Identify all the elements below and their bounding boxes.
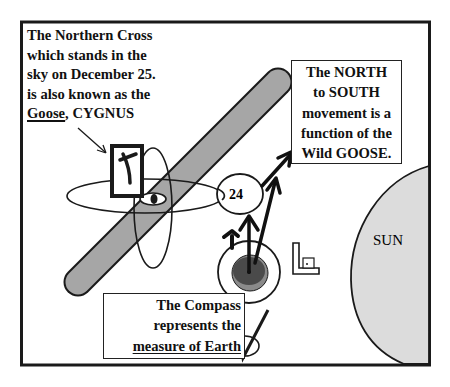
goose-underlined: Goose	[27, 105, 65, 121]
caption-line: is also known as the	[27, 85, 227, 105]
box-line: movement is a	[292, 103, 401, 123]
box-line: represents the	[104, 315, 241, 335]
caption-line: The Northern Cross	[27, 26, 227, 46]
box-line: function of the	[292, 123, 401, 143]
caption-line: Goose, CYGNUS	[27, 104, 227, 124]
compass-box: The Compass represents the measure of Ea…	[103, 293, 245, 359]
northern-cross-card	[112, 146, 142, 196]
box-line: The NORTH	[292, 62, 401, 82]
box-line: to SOUTH	[292, 82, 401, 102]
caption-line: which stands in the	[27, 46, 227, 66]
cygnus-text: , CYGNUS	[65, 105, 134, 121]
sun-label: SUN	[373, 232, 403, 248]
caption-line: sky on December 25.	[27, 65, 227, 85]
northern-cross-caption: The Northern Cross which stands in the s…	[27, 26, 227, 124]
box-line: Wild GOOSE.	[292, 143, 401, 163]
north-south-box: The NORTH to SOUTH movement is a functio…	[291, 60, 402, 164]
box-line: measure of Earth	[104, 336, 241, 356]
box-line: The Compass	[104, 295, 241, 315]
circle-number-label: 24	[229, 187, 243, 202]
diagram-canvas: 24 SUN The Northern Cross which stands i…	[0, 0, 450, 387]
measure-underlined: measure of Earth	[133, 338, 241, 354]
